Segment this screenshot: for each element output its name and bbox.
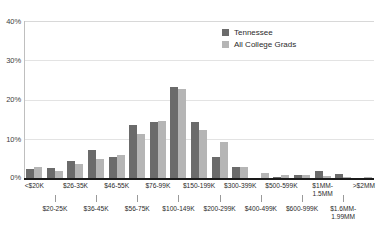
- bar-all-college-grads: [240, 167, 248, 178]
- x-tick-mark: [302, 195, 303, 202]
- bar-group: [127, 21, 148, 178]
- x-tick-mark: [55, 195, 56, 202]
- bar-group: [312, 21, 333, 178]
- bar-all-college-grads: [178, 89, 186, 178]
- x-axis-labels: <$20K $20-25K $26-35K $36-45K $46-55K $5…: [24, 181, 374, 228]
- legend-swatch-icon: [222, 41, 229, 48]
- bar-tennessee: [88, 150, 96, 178]
- chart-legend: Tennessee All College Grads: [222, 26, 296, 50]
- bar-tennessee: [129, 125, 137, 178]
- bar-all-college-grads: [220, 142, 228, 179]
- bar-group: [333, 21, 354, 178]
- bar-groups: [24, 21, 374, 178]
- bar-all-college-grads: [96, 159, 104, 178]
- y-tick-label-40: 40%: [0, 17, 21, 26]
- y-axis-line: [24, 21, 25, 178]
- bar-group: [45, 21, 66, 178]
- bar-group: [189, 21, 210, 178]
- bar-all-college-grads: [55, 171, 63, 178]
- bar-tennessee: [191, 122, 199, 178]
- bar-all-college-grads: [199, 130, 207, 178]
- legend-label: All College Grads: [234, 40, 296, 49]
- x-tick-mark: [261, 195, 262, 202]
- bar-group: [148, 21, 169, 178]
- y-tick-label-10: 10%: [0, 135, 21, 144]
- bar-all-college-grads: [75, 164, 83, 178]
- bar-group: [86, 21, 107, 178]
- bar-all-college-grads: [34, 167, 42, 178]
- y-tick-label-30: 30%: [0, 56, 21, 65]
- bar-tennessee: [47, 168, 55, 178]
- bar-tennessee: [26, 169, 34, 178]
- x-tick-mark: [178, 195, 179, 202]
- bar-tennessee: [109, 157, 117, 178]
- y-tick-label-20: 20%: [0, 95, 21, 104]
- bar-tennessee: [212, 157, 220, 178]
- bar-group: [168, 21, 189, 178]
- x-tick-mark: [96, 195, 97, 202]
- bar-all-college-grads: [117, 155, 125, 178]
- legend-swatch-icon: [222, 29, 229, 36]
- x-label-cell: >$2MM: [354, 181, 375, 228]
- x-tick-label: >$2MM: [346, 182, 377, 190]
- bar-tennessee: [232, 167, 240, 178]
- y-tick-label-0: 0%: [0, 173, 21, 182]
- x-axis-line: [24, 178, 374, 180]
- bar-tennessee: [67, 161, 75, 178]
- bar-group: [106, 21, 127, 178]
- income-distribution-bar-chart: 40% 30% 20% 10% 0% Tennessee All College…: [0, 0, 377, 228]
- bar-tennessee: [170, 87, 178, 178]
- legend-item-tennessee: Tennessee: [222, 26, 296, 38]
- bar-all-college-grads: [158, 121, 166, 178]
- bar-group: [65, 21, 86, 178]
- x-tick-mark: [343, 195, 344, 202]
- plot-area: [24, 21, 374, 178]
- legend-item-all-college-grads: All College Grads: [222, 38, 296, 50]
- bar-tennessee: [315, 171, 323, 178]
- x-tick-mark: [220, 195, 221, 202]
- bar-all-college-grads: [137, 134, 145, 178]
- bar-tennessee: [150, 122, 158, 178]
- x-tick-mark: [137, 195, 138, 202]
- legend-label: Tennessee: [234, 28, 273, 37]
- bar-group: [24, 21, 45, 178]
- bar-group: [354, 21, 375, 178]
